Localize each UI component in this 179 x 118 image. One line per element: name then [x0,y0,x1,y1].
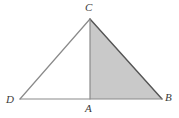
geometry-diagram [0,0,179,118]
vertex-label-a: A [85,103,92,114]
vertex-label-c: C [85,2,92,13]
vertex-label-d: D [6,94,14,105]
vertex-label-b: B [165,92,172,103]
geometry-figure: C D A B [0,0,179,118]
segment-dc [20,19,90,99]
